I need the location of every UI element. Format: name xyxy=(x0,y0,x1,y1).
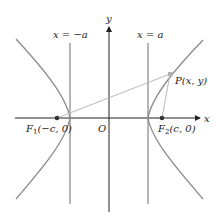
hyperbola-right-branch xyxy=(148,40,203,199)
y-axis-label: y xyxy=(105,13,112,24)
segment-f2-to-p xyxy=(162,74,170,118)
focus-f2-label: F2(c, 0) xyxy=(157,123,196,136)
f2-coords: (c, 0) xyxy=(169,123,195,134)
hyperbola-diagram: y x O x = −a x = a F1(−c, 0) F2(c, 0) P(… xyxy=(0,0,222,222)
focus-f2-dot xyxy=(160,116,165,121)
f1-coords: (−c, 0) xyxy=(37,123,72,134)
x-axis-label: x xyxy=(204,113,210,124)
left-line-label: x = −a xyxy=(53,29,88,40)
right-line-label: x = a xyxy=(137,29,163,40)
point-p-marker xyxy=(168,72,172,76)
segment-f1-to-p xyxy=(57,74,170,118)
hyperbola-left-branch xyxy=(16,39,70,199)
p-coords: (x, y) xyxy=(182,75,208,86)
point-p-label: P(x, y) xyxy=(174,75,207,86)
focus-f1-dot xyxy=(55,116,60,121)
origin-label: O xyxy=(98,123,106,134)
